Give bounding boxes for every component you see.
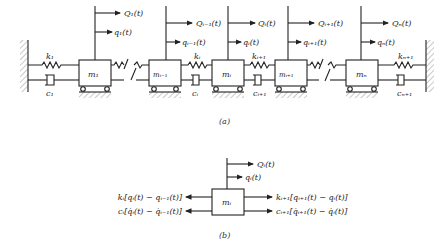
figure-b: mᵢ Qᵢ(t) qᵢ(t) kᵢ[qᵢ(t) − qᵢ₋₁(t)] cᵢ[q̇… bbox=[118, 158, 349, 240]
displacement-label: q₁(t) bbox=[114, 28, 132, 37]
spring-label: k₁ bbox=[46, 52, 54, 61]
spring-k1 bbox=[28, 62, 79, 68]
displacement-label: qᵢ(t) bbox=[245, 173, 261, 182]
force-label: Qᵢ(t) bbox=[258, 19, 276, 28]
damper-label: cᵢ bbox=[192, 89, 198, 98]
damper-ci bbox=[181, 75, 212, 85]
damper-label: c₁ bbox=[46, 89, 54, 98]
right-damper-force-label: cᵢ₊₁[q̇ᵢ₊₁(t) − q̇ᵢ(t)] bbox=[276, 207, 348, 216]
spring-break-2 bbox=[307, 59, 346, 81]
damper-c1 bbox=[28, 75, 79, 85]
displacement-label: qᵢ₊₁(t) bbox=[303, 38, 327, 47]
mass-m-i-minus-1 bbox=[149, 6, 192, 98]
mass-label: mᵢ bbox=[222, 70, 232, 79]
mass-label: mᵢ₋₁ bbox=[153, 71, 168, 79]
mass-label: m₁ bbox=[88, 70, 99, 79]
spring-label: kₙ₊₁ bbox=[398, 52, 414, 61]
mass-m1 bbox=[79, 6, 120, 98]
caption-a: (a) bbox=[219, 117, 230, 126]
force-label: Q₁(t) bbox=[124, 9, 143, 18]
displacement-label: qᵢ(t) bbox=[243, 38, 259, 47]
spring-ki-plus-1 bbox=[244, 62, 275, 68]
force-label: Qᵢ₊₁(t) bbox=[318, 19, 343, 28]
right-spring-force-label: kᵢ₊₁[qᵢ₊₁(t) − qᵢ(t)] bbox=[276, 193, 349, 202]
mass-label: mᵢ₊₁ bbox=[279, 71, 294, 79]
spring-ki bbox=[181, 62, 212, 68]
mass-label: mᵢ bbox=[222, 198, 232, 207]
damper-label: cᵢ₊₁ bbox=[253, 89, 267, 98]
force-label: Qᵢ(t) bbox=[257, 160, 275, 169]
spring-kn-plus-1 bbox=[378, 62, 426, 68]
mass-m-i-plus-1 bbox=[275, 6, 314, 98]
spring-label: kᵢ bbox=[194, 52, 201, 61]
figure-a: m₁ mᵢ₋₁ mᵢ mᵢ₊₁ mₙ Q₁(t) q₁(t) Qᵢ₋₁(t) q… bbox=[20, 6, 434, 126]
damper-label: cₙ₊₁ bbox=[397, 89, 412, 98]
left-wall bbox=[20, 40, 28, 92]
caption-b: (b) bbox=[219, 231, 230, 240]
damper-ci-plus-1 bbox=[244, 75, 275, 85]
mass-spring-damper-diagram: m₁ mᵢ₋₁ mᵢ mᵢ₊₁ mₙ Q₁(t) q₁(t) Qᵢ₋₁(t) q… bbox=[0, 0, 448, 242]
mass-label: mₙ bbox=[356, 70, 367, 79]
spring-break-1 bbox=[111, 59, 149, 80]
spring-label: kᵢ₊₁ bbox=[252, 52, 266, 61]
displacement-label: qₙ(t) bbox=[377, 38, 395, 47]
mass-m-n bbox=[346, 6, 388, 98]
displacement-label: qᵢ₋₁(t) bbox=[182, 38, 206, 47]
left-damper-force-label: cᵢ[q̇ᵢ(t) − q̇ᵢ₋₁(t)] bbox=[118, 207, 183, 216]
force-label: Qₙ(t) bbox=[392, 19, 411, 28]
right-wall bbox=[426, 40, 434, 92]
left-spring-force-label: kᵢ[qᵢ(t) − qᵢ₋₁(t)] bbox=[118, 193, 183, 202]
force-label: Qᵢ₋₁(t) bbox=[196, 19, 221, 28]
damper-cn-plus-1 bbox=[378, 75, 426, 85]
